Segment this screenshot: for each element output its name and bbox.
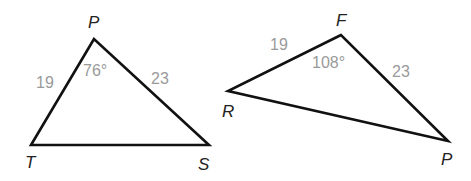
vertex-label-p2: P [441,150,453,169]
triangle-pts-outline [31,39,209,145]
triangle-frp: F R P 19 23 108° [222,11,453,169]
angle-f-measure: 108° [312,54,345,71]
vertex-label-s: S [198,155,210,174]
triangle-frp-outline [228,35,448,141]
side-pt-length: 19 [36,74,54,91]
vertex-label-f: F [336,11,348,30]
angle-p-measure: 76° [83,62,107,79]
diagram-canvas: P T S 19 23 76° F R P 19 23 108° [0,0,471,181]
vertex-label-r: R [222,102,234,121]
side-ps-length: 23 [151,70,169,87]
vertex-label-p1: P [88,13,100,32]
side-fp-length: 23 [392,63,410,80]
side-rf-length: 19 [270,36,288,53]
vertex-label-t: T [25,153,37,172]
triangle-pts: P T S 19 23 76° [25,13,210,174]
